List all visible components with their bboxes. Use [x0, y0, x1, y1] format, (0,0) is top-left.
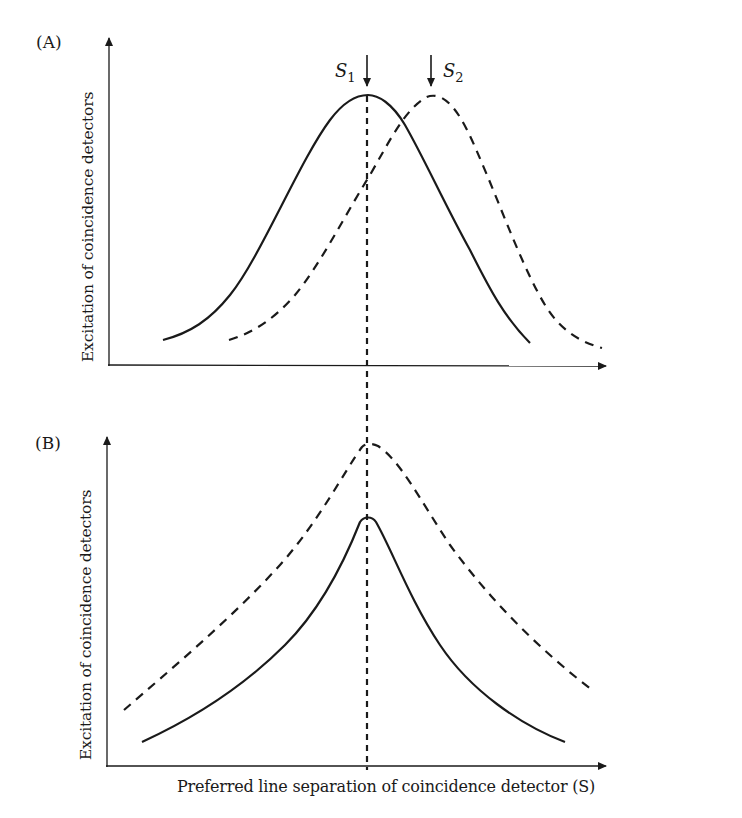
panel-b-y-axis-label: Excitation of coincidence detectors	[77, 490, 95, 760]
panel-b-curve-solid	[142, 518, 565, 743]
panel-b-axes	[106, 437, 606, 767]
s1-label: S1	[335, 60, 356, 85]
panel-a-curve-s1	[163, 95, 530, 343]
panel-a-y-axis-label: Excitation of coincidence detectors	[79, 92, 97, 362]
figure-canvas	[0, 0, 742, 818]
panel-a-label: (A)	[36, 32, 62, 52]
s2-label: S2	[443, 60, 464, 85]
s1-label-sub: 1	[347, 70, 355, 85]
panel-b-curve-dashed	[124, 444, 592, 710]
panel-b-label: (B)	[35, 433, 61, 453]
x-axis-label: Preferred line separation of coincidence…	[177, 777, 595, 796]
s2-label-name: S	[443, 60, 455, 81]
panel-a-curve-s2	[229, 96, 602, 348]
panel-a-x-axis	[108, 365, 600, 366]
s1-label-name: S	[335, 60, 347, 81]
panel-a-axes	[108, 38, 606, 366]
s2-label-sub: 2	[455, 70, 463, 85]
